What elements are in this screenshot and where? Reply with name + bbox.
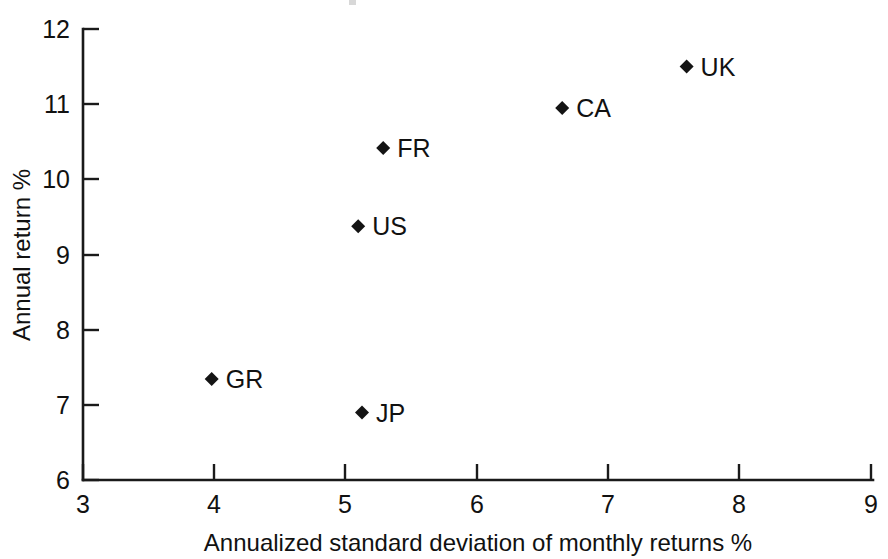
y-tick-labels: 12 11 10 9 8 7 6: [42, 15, 70, 494]
y-tick-label-6: 6: [56, 466, 70, 494]
marker-diamond-us[interactable]: [351, 219, 365, 233]
y-tick-label-10: 10: [42, 165, 70, 193]
x-tick-label-4: 4: [207, 490, 221, 518]
point-label-gr: GR: [226, 365, 264, 393]
point-label-ca: CA: [576, 94, 611, 122]
x-axis-title: Annualized standard deviation of monthly…: [204, 529, 752, 556]
x-tick-labels: 3 4 5 6 7 8 9: [76, 490, 878, 518]
y-axis-title: Annual return %: [8, 169, 35, 341]
marker-diamond-gr[interactable]: [205, 372, 219, 386]
marker-diamond-jp[interactable]: [355, 406, 369, 420]
data-point-gr[interactable]: GR: [205, 365, 264, 393]
x-tick-label-7: 7: [601, 490, 615, 518]
data-point-us[interactable]: US: [351, 212, 407, 240]
data-point-ca[interactable]: CA: [555, 94, 611, 122]
y-axis-ticks: [83, 29, 99, 480]
marker-diamond-ca[interactable]: [555, 101, 569, 115]
data-point-jp[interactable]: JP: [355, 399, 405, 427]
marker-diamond-uk[interactable]: [680, 60, 694, 74]
y-tick-label-11: 11: [44, 90, 70, 118]
x-tick-label-8: 8: [732, 490, 746, 518]
x-tick-label-5: 5: [338, 490, 352, 518]
point-label-us: US: [372, 212, 407, 240]
x-tick-label-9: 9: [864, 490, 878, 518]
point-label-fr: FR: [397, 134, 430, 162]
point-label-uk: UK: [701, 53, 736, 81]
point-label-jp: JP: [376, 399, 405, 427]
scatter-chart-figure: 12 11 10 9 8 7 6 3 4 5 6 7 8 9 Annual re…: [0, 0, 888, 559]
marker-diamond-fr[interactable]: [376, 141, 390, 155]
y-tick-label-8: 8: [56, 316, 70, 344]
axes-spines: [83, 29, 873, 480]
scan-artifact: [349, 0, 356, 5]
data-point-uk[interactable]: UK: [680, 53, 736, 81]
x-tick-label-3: 3: [76, 490, 90, 518]
x-tick-label-6: 6: [470, 490, 484, 518]
plot-canvas: 12 11 10 9 8 7 6 3 4 5 6 7 8 9 Annual re…: [0, 0, 888, 559]
y-tick-label-7: 7: [56, 391, 70, 419]
x-axis-ticks: [83, 464, 871, 480]
y-tick-label-9: 9: [56, 241, 70, 269]
y-tick-label-12: 12: [42, 15, 70, 43]
data-point-fr[interactable]: FR: [376, 134, 430, 162]
